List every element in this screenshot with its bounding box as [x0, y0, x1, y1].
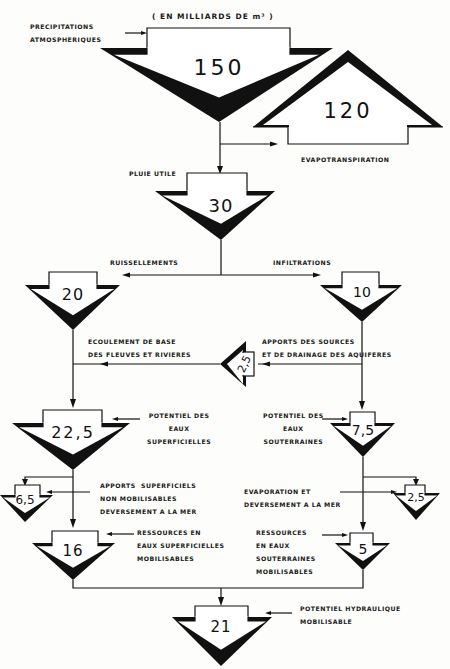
arrow-shaft-mask: [289, 124, 407, 128]
value-ressources-superficielles: 16: [62, 542, 83, 560]
arrow-shaft: [49, 272, 97, 285]
label-apports-sources: APPORTS DES SOURCES ET DE DRAINAGE DES A…: [262, 335, 392, 361]
label-infiltrations: INFILTRATIONS: [273, 256, 331, 269]
label-ecoulement-base: ECOULEMENT DE BASE DES FLEUVES ET RIVIER…: [88, 335, 191, 361]
label-pluie-utile: PLUIE UTILE: [129, 167, 176, 180]
arrow-shaft: [187, 173, 247, 191]
value-ruissellements: 20: [62, 285, 84, 304]
label-ruissellements: RUISSELLEMENTS: [110, 256, 178, 269]
arrowhead: [218, 597, 224, 606]
arrowhead: [270, 142, 278, 147]
arrow-ruissellements: 20: [25, 272, 120, 330]
arrow-pluie-utile: 30: [155, 173, 275, 240]
label-potentiel-superficielles: POTENTIEL DES EAUX SUPERFICIELLES: [147, 409, 211, 448]
value-infiltrations: 10: [353, 284, 371, 300]
value-potentiel-superficielles: 22,5: [51, 423, 95, 442]
label-evaporation-deversement: EVAPORATION ET DEVERSEMENT A LA MER: [244, 485, 341, 511]
value-apports-non-mobilisables: 6,5: [15, 493, 34, 507]
arrowhead: [262, 362, 270, 367]
arrow-shaft: [43, 410, 102, 423]
line-to-2-5-bottom: [363, 477, 416, 482]
value-evapotranspiration: 120: [323, 99, 372, 123]
arrowhead: [141, 31, 147, 35]
arrowhead: [265, 611, 271, 615]
arrow-ecoulement-base: 2,5: [220, 341, 254, 387]
value-potentiel-hydraulique: 21: [210, 618, 231, 636]
arrowhead: [313, 273, 321, 278]
value-evaporation-deversement: 2,5: [407, 491, 425, 504]
value-potentiel-souterraines: 7,5: [352, 422, 374, 438]
arrow-ressources-souterraines: 5: [335, 533, 390, 570]
arrowhead: [342, 533, 348, 537]
label-precipitations: PRECIPITATIONS ATMOSPHERIQUES: [30, 20, 101, 46]
value-ressources-souterraines: 5: [359, 541, 368, 557]
arrow-ressources-superficielles: 16: [32, 531, 115, 580]
arrowhead: [360, 522, 366, 531]
merge-line: [73, 570, 363, 588]
label-evapotranspiration: EVAPOTRANSPIRATION: [301, 153, 389, 166]
label-potentiel-hydraulique: POTENTIEL HYDRAULIQUE MOBILISABLE: [300, 602, 401, 628]
arrowhead: [122, 273, 130, 278]
arrowhead: [342, 417, 348, 421]
arrow-infiltrations: 10: [320, 272, 402, 322]
line-to-6-5: [25, 477, 73, 482]
arrow-shaft: [253, 127, 443, 144]
label-apports-non-mobilisables: APPORTS SUPERFICIELS NON MOBILISABLES DE…: [100, 479, 197, 518]
label-ressources-souterraines: RESSOURCES EN EAUX SOUTERRAINES MOBILISA…: [256, 526, 316, 578]
arrowhead: [70, 399, 76, 408]
arrow-evaporation-deversement: 2,5: [393, 485, 440, 520]
arrowhead: [359, 401, 365, 410]
arrowhead: [112, 417, 118, 421]
label-potentiel-souterraines: POTENTIEL DES EAUX SOUTERRAINES: [263, 409, 324, 448]
arrowhead: [70, 519, 76, 528]
label-ressources-superficielles: RESSOURCES EN EAUX SUPERFICIELLES MOBILI…: [137, 526, 224, 565]
arrowhead: [46, 490, 52, 494]
arrow-shaft: [147, 28, 290, 48]
arrowhead: [106, 532, 112, 536]
arrow-shaft: [195, 606, 248, 617]
arrow-apports-non-mobilisables: 6,5: [0, 485, 53, 522]
value-precipitations: 150: [194, 55, 245, 80]
arrowhead: [100, 362, 108, 367]
value-pluie-utile: 30: [209, 195, 234, 216]
arrow-potentiel-hydraulique: 21: [172, 606, 272, 666]
